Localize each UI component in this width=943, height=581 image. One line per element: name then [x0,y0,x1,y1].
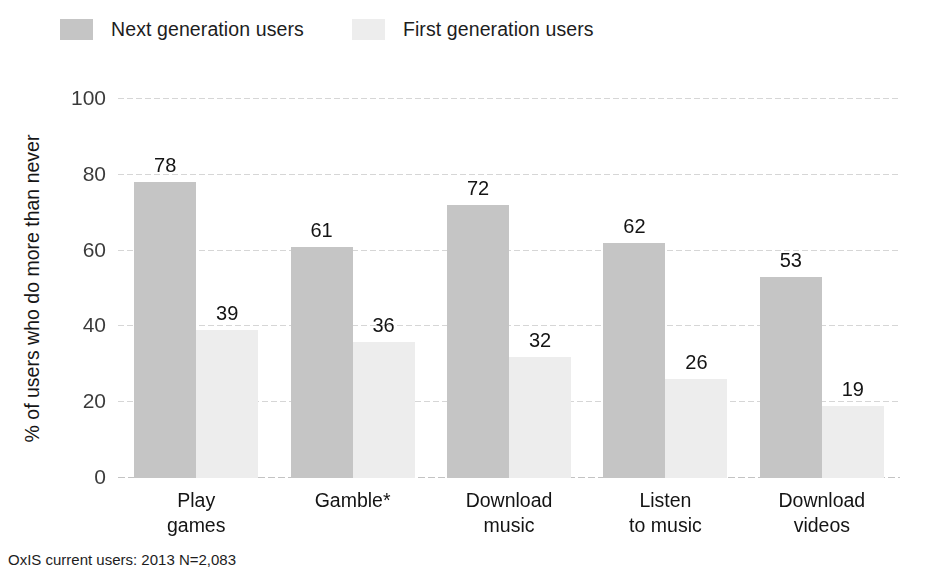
y-axis-tick-40: 40 [83,313,106,337]
bar-groups: 78396136723262265319 [118,99,900,478]
x-axis-label-line: videos [744,513,900,538]
bar-value-label: 39 [216,302,238,325]
bar-group: 5319 [744,99,900,478]
bar-slot: 26 [665,99,727,478]
x-axis-label: Playgames [118,488,274,538]
y-axis-tick-80: 80 [83,162,106,186]
bar-group: 7232 [431,99,587,478]
y-axis-tick-100: 100 [71,86,106,110]
bar-value-label: 61 [310,219,332,242]
bar-slot: 19 [822,99,884,478]
y-axis-tick-0: 0 [94,465,106,489]
x-axis-label-line: games [118,513,274,538]
bar-slot: 53 [760,99,822,478]
x-axis-label-line: Download [431,488,587,513]
bar-slot: 36 [353,99,415,478]
bar[interactable]: 36 [353,342,415,478]
legend-swatch-icon-series-0 [60,19,93,40]
legend-swatch-icon-series-1 [352,19,385,40]
x-axis-label: Downloadvideos [744,488,900,538]
x-axis-label: Gamble* [274,488,430,538]
bar-value-label: 26 [685,351,707,374]
bar-slot: 72 [447,99,509,478]
bar[interactable]: 32 [509,357,571,478]
bar-group: 6226 [587,99,743,478]
bar-value-label: 78 [154,154,176,177]
bar-group: 7839 [118,99,274,478]
bar-slot: 62 [603,99,665,478]
x-axis-label-line: Listen [587,488,743,513]
x-axis-label: Downloadmusic [431,488,587,538]
legend-label-series-0: Next generation users [111,18,304,41]
bar-chart: Next generation users First generation u… [0,0,943,581]
bar[interactable]: 39 [196,330,258,478]
bar-value-label: 72 [467,177,489,200]
x-axis-labels: PlaygamesGamble*DownloadmusicListento mu… [118,488,900,538]
bar-value-label: 62 [623,215,645,238]
bar-slot: 39 [196,99,258,478]
x-axis-label-line: Gamble* [274,488,430,513]
x-axis-label-line: Play [118,488,274,513]
y-axis-tick-60: 60 [83,238,106,262]
bar[interactable]: 53 [760,277,822,478]
bar[interactable]: 26 [665,379,727,478]
bar-value-label: 36 [372,314,394,337]
legend-item-first-generation-users: First generation users [352,18,594,41]
bar-value-label: 32 [529,329,551,352]
y-axis-title-text: % of users who do more than never [22,135,45,443]
legend-item-next-generation-users: Next generation users [60,18,304,41]
x-axis-label: Listento music [587,488,743,538]
bar-value-label: 19 [842,378,864,401]
bar-group: 6136 [274,99,430,478]
bar-slot: 61 [291,99,353,478]
chart-footnote: OxIS current users: 2013 N=2,083 [8,551,236,568]
x-axis-label-line: Download [744,488,900,513]
bar[interactable]: 19 [822,406,884,478]
y-axis-title: % of users who do more than never [18,99,48,478]
bar[interactable]: 78 [134,182,196,478]
chart-legend: Next generation users First generation u… [60,18,594,41]
legend-label-series-1: First generation users [403,18,594,41]
bar-value-label: 53 [780,249,802,272]
bar[interactable]: 62 [603,243,665,478]
bar-slot: 78 [134,99,196,478]
x-axis-label-line: to music [587,513,743,538]
bar[interactable]: 72 [447,205,509,478]
bar[interactable]: 61 [291,247,353,478]
plot-area: 020406080100 78396136723262265319 [118,99,900,478]
y-axis-tick-20: 20 [83,389,106,413]
bar-slot: 32 [509,99,571,478]
x-axis-label-line: music [431,513,587,538]
